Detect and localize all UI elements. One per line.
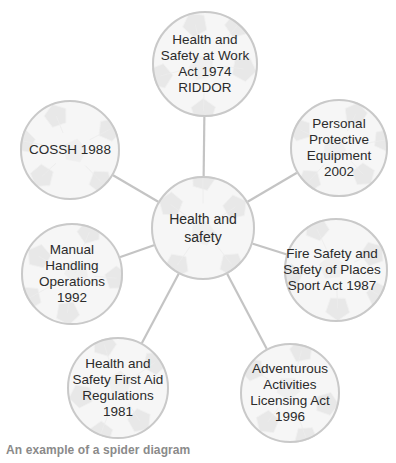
node-cossh: [13, 100, 122, 200]
ball-outline: [153, 12, 257, 116]
node-hasawa: [149, 11, 258, 122]
node-fire: [279, 217, 390, 322]
spider-diagram: [0, 0, 396, 463]
node-center: [151, 167, 255, 280]
ball-outline: [152, 177, 254, 279]
ball-outline: [285, 219, 387, 321]
node-adventurous: [240, 339, 340, 450]
node-first-aid: [67, 333, 169, 444]
node-manual: [18, 220, 128, 325]
ball-outline: [22, 224, 122, 324]
ball-outline: [21, 101, 119, 199]
node-ppe: [288, 99, 396, 197]
ball-outline: [291, 100, 387, 196]
diagram-caption: An example of a spider diagram: [6, 443, 190, 457]
ball-outline: [68, 338, 168, 438]
ball-outline: [241, 344, 339, 442]
